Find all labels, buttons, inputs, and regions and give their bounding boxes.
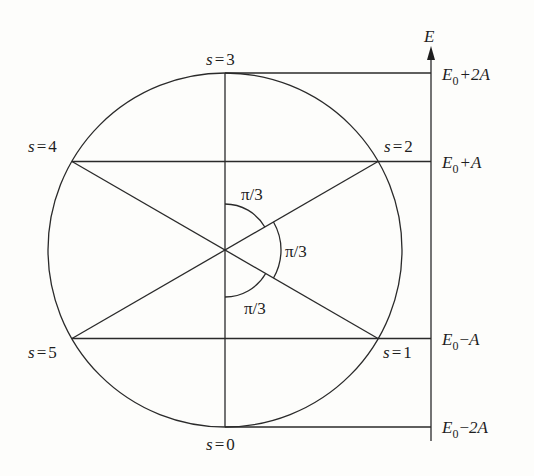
angle-label-bottom: π/3 xyxy=(244,299,266,318)
angle-arc-top xyxy=(225,204,265,227)
state-label-s0: s=0 xyxy=(206,435,235,454)
angle-arc-right xyxy=(274,222,282,278)
energy-label-e0-plus-2a: E0+2A xyxy=(441,65,490,88)
axis-arrow-icon xyxy=(427,46,435,60)
state-label-s4: s=4 xyxy=(28,137,57,156)
state-label-s3: s=3 xyxy=(206,50,235,69)
state-label-s5: s=5 xyxy=(28,343,57,362)
energy-label-e0-minus-2a: E0−2A xyxy=(441,418,488,441)
angle-label-right: π/3 xyxy=(285,242,307,261)
angle-arc-bottom xyxy=(225,274,266,298)
state-label-s1: s=1 xyxy=(383,343,412,362)
energy-label-e0-plus-a: E0+A xyxy=(441,153,482,176)
energy-level-circle-diagram: s=3 s=4 s=2 s=5 s=1 s=0 E E0+2A E0+A E0−… xyxy=(0,0,534,476)
angle-label-top: π/3 xyxy=(241,185,263,204)
state-label-s2: s=2 xyxy=(384,137,413,156)
energy-label-e0-minus-a: E0−A xyxy=(441,330,480,353)
energy-axis-label: E xyxy=(423,27,435,46)
